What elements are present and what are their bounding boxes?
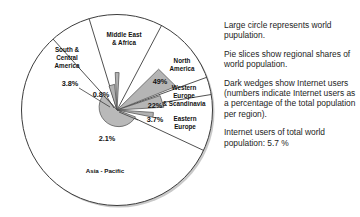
note-pie-slices: Pie slices show regional shares of world… [224,49,358,70]
percent-middle-east-africa: 0.8% [93,90,110,99]
percent-north-america: 49% [153,77,168,86]
label-north-america-line1: North [174,57,191,64]
pie-chart-svg: South & Central America Middle East & Af… [0,0,222,217]
label-eastern-europe-line2: Europe [174,123,196,131]
label-north-america-line2: America [170,65,195,72]
label-western-europe-line3: & Scandinavia [162,100,206,107]
percent-south-central-america: 3.8% [62,79,79,88]
label-western-europe-line2: Europe [173,92,195,100]
notes-panel: Large circle represents world pupulation… [224,20,358,148]
label-middle-east-africa-line1: Middle East [107,31,143,38]
percent-asia-pacific: 2.1% [99,134,116,143]
percent-western-europe: 22% [148,101,163,110]
label-asia-pacific: Asia - Pacific [86,167,125,174]
label-eastern-europe-line1: Eastern [173,115,196,122]
note-world-population: Large circle represents world pupulation… [224,20,358,41]
percent-eastern-europe: 3.7% [147,115,164,124]
note-dark-wedges: Dark wedges show Internet users (numbers… [224,78,358,120]
label-middle-east-africa-line2: & Africa [112,39,136,46]
label-western-europe-line1: Western [172,84,197,91]
label-south-central-america-line1: South & [55,46,80,53]
label-south-central-america-line3: America [55,62,80,69]
note-total-world-share: Internet users of total world population… [224,127,358,148]
figure-root: South & Central America Middle East & Af… [0,0,360,217]
pie-chart: South & Central America Middle East & Af… [0,0,222,217]
label-south-central-america-line2: Central [56,54,78,61]
